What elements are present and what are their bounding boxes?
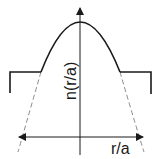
cladding-step-right bbox=[120, 72, 151, 94]
parabola-extension-left bbox=[18, 72, 41, 152]
y-axis-label: n(r/a) bbox=[62, 62, 79, 100]
index-profile-diagram: n(r/a) r/a bbox=[0, 0, 161, 159]
x-axis-label: r/a bbox=[111, 140, 130, 157]
